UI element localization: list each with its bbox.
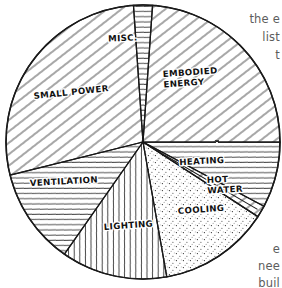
pie-chart-canvas: MISC.MISC.EMBODIEDENERGYEMBODIEDENERGYHE…: [0, 0, 282, 288]
margin-text-line: nee: [258, 259, 280, 273]
pie-chart-figure: MISC.MISC.EMBODIEDENERGYEMBODIEDENERGYHE…: [0, 0, 282, 288]
margin-text-line: buil: [258, 276, 280, 288]
margin-text-line: list: [262, 30, 280, 44]
pie-label-misc: MISC.: [108, 32, 138, 43]
margin-text-line: the e: [249, 12, 280, 26]
margin-text-line: t: [275, 48, 280, 62]
margin-text-line: e: [273, 242, 280, 256]
